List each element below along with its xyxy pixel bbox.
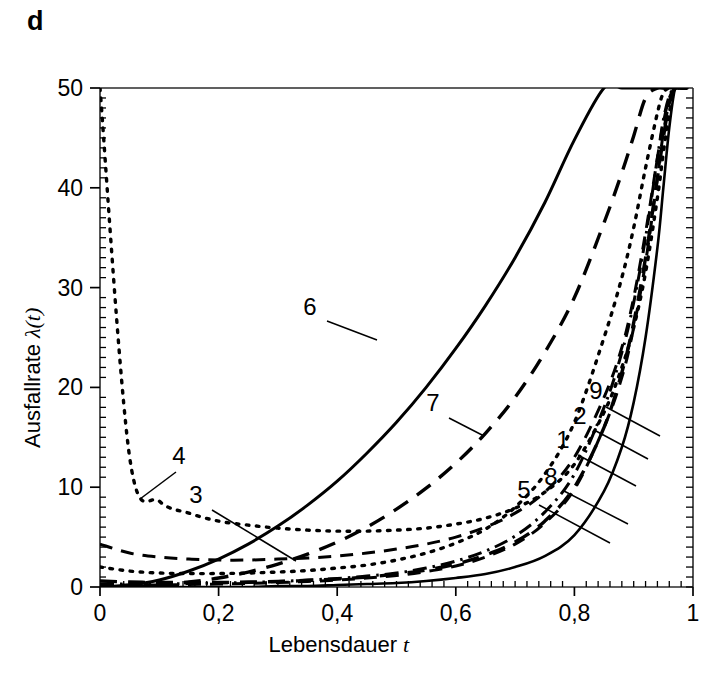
x-axis-title: Lebensdauer t <box>269 632 410 657</box>
curve-label-1: 1 <box>556 426 569 453</box>
curve-2 <box>100 87 687 583</box>
curve-label-5: 5 <box>517 476 530 503</box>
curve-leader-6 <box>327 321 377 340</box>
curve-3 <box>100 87 687 560</box>
y-tick-label-5: 50 <box>57 75 83 101</box>
curve-leader-7 <box>449 418 484 436</box>
x-axis-title-symbol: t <box>403 632 410 657</box>
curve-label-2: 2 <box>573 402 586 429</box>
curve-leader-2 <box>596 431 648 459</box>
y-axis-title-symbol: λ(t) <box>20 308 45 339</box>
y-tick-label-2: 20 <box>57 374 83 400</box>
curve-4 <box>100 86 687 531</box>
figure-container: d 00,20,40,60,81 01020304050 123456789 L… <box>0 0 725 687</box>
curve-label-3: 3 <box>189 481 202 508</box>
y-axis-tick-labels: 01020304050 <box>57 75 83 600</box>
curve-leader-4 <box>140 472 176 499</box>
x-axis-title-text: Lebensdauer <box>269 632 397 657</box>
x-tick-label-0: 0 <box>94 600 107 626</box>
curve-label-8: 8 <box>544 463 557 490</box>
curve-leader-5 <box>539 505 610 543</box>
curve-label-9: 9 <box>589 377 602 404</box>
curve-label-6: 6 <box>303 293 316 320</box>
x-tick-label-1: 0,2 <box>203 600 235 626</box>
data-curves <box>100 84 687 587</box>
y-axis-title: Ausfallrate λ(t) <box>20 308 45 448</box>
curves-clip-group <box>100 84 687 587</box>
x-tick-label-3: 0,6 <box>440 600 472 626</box>
curve-leader-8 <box>564 491 628 524</box>
y-tick-label-1: 10 <box>57 474 83 500</box>
x-tick-label-4: 0,8 <box>558 600 590 626</box>
curve-leader-1 <box>578 455 636 486</box>
curve-label-4: 4 <box>172 442 185 469</box>
y-tick-label-4: 40 <box>57 175 83 201</box>
x-tick-label-2: 0,4 <box>321 600 353 626</box>
curve-label-7: 7 <box>426 389 439 416</box>
y-tick-label-3: 30 <box>57 275 83 301</box>
curve-leader-3 <box>212 510 296 561</box>
y-axis-title-text: Ausfallrate <box>20 344 45 448</box>
y-tick-label-0: 0 <box>70 574 83 600</box>
chart-plot: 00,20,40,60,81 01020304050 123456789 Leb… <box>0 0 725 687</box>
x-axis-tick-labels: 00,20,40,60,81 <box>94 600 700 626</box>
x-tick-label-5: 1 <box>687 600 700 626</box>
